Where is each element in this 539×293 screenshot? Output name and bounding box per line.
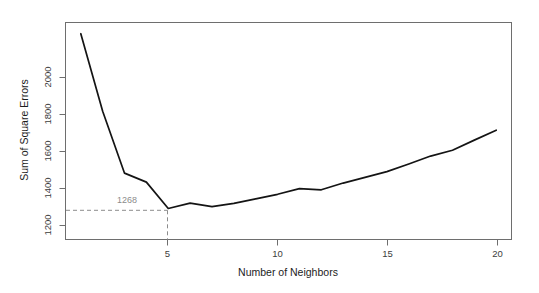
minimum-value-annotation: 1268 (117, 195, 137, 205)
y-tick-label-1800: 1800 (42, 103, 53, 124)
x-tick-label-15: 15 (382, 248, 393, 259)
y-tick-label-2000: 2000 (42, 66, 53, 87)
y-axis-title: Sum of Square Errors (18, 79, 30, 181)
x-tick-label-10: 10 (272, 248, 283, 259)
y-tick-label-1200: 1200 (42, 214, 53, 235)
chart-container: 1200 1400 1600 1800 2000 5 10 15 20 Numb… (0, 0, 539, 293)
y-tick-label-1400: 1400 (42, 177, 53, 198)
x-tick-label-20: 20 (492, 248, 503, 259)
x-axis-title: Number of Neighbors (238, 266, 338, 278)
chart-background (0, 0, 539, 293)
sse-vs-neighbors-line-chart: 1200 1400 1600 1800 2000 5 10 15 20 Numb… (0, 0, 539, 293)
y-tick-label-1600: 1600 (42, 140, 53, 161)
x-tick-label-5: 5 (165, 248, 170, 259)
